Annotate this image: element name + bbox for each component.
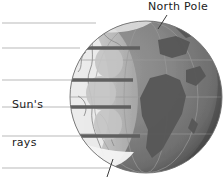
sun-rays-label-line2: rays bbox=[12, 137, 43, 150]
sun-rays-label: Sun's rays bbox=[12, 74, 43, 174]
sun-rays-label-line1: Sun's bbox=[12, 99, 43, 112]
diagram-canvas: North Pole Sun's rays bbox=[0, 0, 224, 178]
earth-globe bbox=[50, 0, 224, 178]
north-pole-label: North Pole bbox=[148, 1, 208, 14]
footprint-1 bbox=[95, 46, 123, 78]
